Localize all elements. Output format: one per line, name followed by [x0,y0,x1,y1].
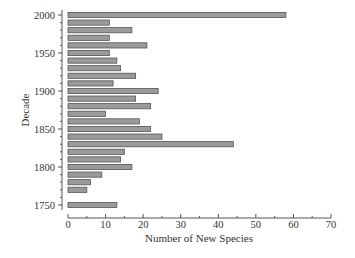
y-tick-label: 1950 [34,48,55,59]
y-tick-label: 2000 [34,10,55,21]
x-tick-label: 30 [175,219,186,230]
y-tick-label: 1750 [34,200,55,211]
x-tick-label: 20 [138,219,149,230]
bar-1870 [68,111,106,116]
bar-2000 [68,12,286,17]
x-tick-label: 40 [213,219,224,230]
bar-1880 [68,104,151,109]
bar-1790 [68,172,102,177]
bar-1910 [68,81,113,86]
bar-1940 [68,58,117,63]
y-axis: 175018001850190019502000 [34,10,62,211]
x-axis: 010203040506070 [65,214,336,230]
bar-1970 [68,35,109,40]
y-tick-label: 1850 [34,124,55,135]
bar-1920 [68,73,136,78]
bar-1980 [68,28,132,33]
bar-1840 [68,134,162,139]
x-tick-label: 70 [326,219,337,230]
bar-1820 [68,149,124,154]
bar-1800 [68,164,132,169]
bar-1830 [68,142,233,147]
x-tick-label: 10 [100,219,111,230]
bar-1890 [68,96,136,101]
x-tick-label: 50 [251,219,262,230]
bar-1900 [68,88,158,93]
x-tick-label: 60 [288,219,299,230]
bar-1770 [68,187,87,192]
bar-1750 [68,202,117,207]
y-tick-label: 1800 [34,162,55,173]
y-tick-label: 1900 [34,86,55,97]
bar-1990 [68,20,109,25]
x-tick-label: 0 [65,219,70,230]
bar-1850 [68,126,151,131]
bar-1810 [68,157,121,162]
bars-group [68,12,286,207]
bar-1930 [68,66,121,71]
x-axis-title: Number of New Species [145,232,253,244]
bar-1860 [68,119,139,124]
bar-chart: 175018001850190019502000 010203040506070… [0,0,355,258]
bar-1960 [68,43,147,48]
bar-1950 [68,50,109,55]
bar-1780 [68,180,91,185]
y-axis-title: Decade [19,93,31,126]
